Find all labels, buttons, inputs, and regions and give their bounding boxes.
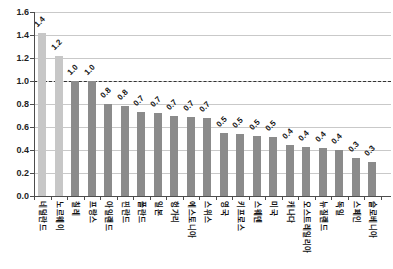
- y-axis-label: 0.6: [3, 123, 29, 132]
- bar-value-label: 0.7: [199, 100, 213, 114]
- bar-value-label: 1.4: [34, 15, 48, 29]
- bar-4: [88, 81, 96, 196]
- bar-value-label: 0.5: [265, 120, 279, 134]
- bar-value-label: 0.7: [166, 98, 180, 112]
- x-axis-tick: [150, 197, 151, 200]
- x-axis-label: 뉴질랜드: [319, 201, 327, 231]
- bar-7: [137, 112, 145, 196]
- bar-value-label: 0.7: [149, 96, 163, 110]
- bar-value-label: 0.4: [331, 132, 345, 146]
- x-axis-label: 폴란드: [137, 201, 145, 224]
- bar-19: [335, 150, 343, 196]
- x-axis-tick: [331, 197, 332, 200]
- bar-value-label: 0.4: [281, 128, 295, 142]
- x-axis-label: 영국: [220, 201, 228, 216]
- x-axis-tick: [84, 197, 85, 200]
- x-axis-label: 미국: [269, 201, 277, 216]
- y-axis-label: 0.4: [3, 146, 29, 155]
- bar-15: [269, 137, 277, 196]
- x-axis-label: 독일: [335, 201, 343, 216]
- bar-14: [253, 136, 261, 196]
- bar-value-label: 0.8: [116, 89, 130, 103]
- x-axis-label: 핀란드: [121, 201, 129, 224]
- y-axis-label: 1.4: [3, 31, 29, 40]
- y-axis-label: 0.2: [3, 169, 29, 178]
- x-axis-label: 노르웨이: [55, 201, 63, 231]
- x-axis-label: 스페인: [352, 201, 360, 224]
- x-axis-tick: [298, 197, 299, 200]
- bar-12: [220, 133, 228, 196]
- bar-chart: 0.00.20.40.60.81.01.21.41.61.4네덜란드1.2노르웨…: [0, 0, 393, 269]
- bar-13: [236, 134, 244, 196]
- bar-16: [286, 145, 294, 196]
- bar-value-label: 1.0: [67, 63, 81, 77]
- gridline: [34, 12, 391, 13]
- y-axis-label: 1.6: [3, 8, 29, 17]
- x-axis-label: 아일랜드: [104, 201, 112, 231]
- x-axis-line: [34, 196, 391, 197]
- x-axis-label: 일본: [154, 201, 162, 216]
- x-axis-tick: [364, 197, 365, 200]
- bar-value-label: 0.4: [298, 129, 312, 143]
- bar-9: [170, 116, 178, 197]
- bar-value-label: 0.7: [133, 95, 147, 109]
- x-axis-tick: [100, 197, 101, 200]
- bar-2: [55, 56, 63, 196]
- x-axis-tick: [282, 197, 283, 200]
- gridline: [34, 35, 391, 36]
- x-axis-label: 프랑스: [88, 201, 96, 224]
- bar-value-label: 0.3: [364, 144, 378, 158]
- x-axis-tick: [166, 197, 167, 200]
- bar-6: [121, 106, 129, 196]
- x-axis-tick: [315, 197, 316, 200]
- x-axis-tick: [381, 197, 382, 200]
- y-axis-label: 0.0: [3, 192, 29, 201]
- x-axis-tick: [216, 197, 217, 200]
- bar-value-label: 0.7: [182, 99, 196, 113]
- y-axis-label: 1.0: [3, 77, 29, 86]
- x-axis-label: 네덜란드: [38, 201, 46, 231]
- x-axis-label: 스위스: [203, 201, 211, 224]
- bar-21: [368, 162, 376, 197]
- bar-value-label: 0.5: [248, 119, 262, 133]
- x-axis-label: 캐나다: [286, 201, 294, 224]
- x-axis-tick: [34, 197, 35, 200]
- bar-10: [187, 117, 195, 196]
- bar-20: [352, 158, 360, 196]
- x-axis-label: 키프로스: [236, 201, 244, 231]
- x-axis-tick: [183, 197, 184, 200]
- x-axis-tick: [51, 197, 52, 200]
- bar-value-label: 0.8: [100, 86, 114, 100]
- bar-value-label: 0.3: [347, 141, 361, 155]
- x-axis-label: 오스트레일리아: [302, 201, 310, 254]
- bar-value-label: 1.2: [50, 38, 64, 52]
- x-axis-label: 에스토니아: [187, 201, 195, 239]
- y-axis-label: 0.8: [3, 100, 29, 109]
- bar-1: [38, 33, 46, 196]
- x-axis-tick: [117, 197, 118, 200]
- x-axis-tick: [265, 197, 266, 200]
- bar-value-label: 1.0: [83, 63, 97, 77]
- x-axis-label: 칠레: [71, 201, 79, 216]
- x-axis-label: 스웨덴: [253, 201, 261, 224]
- y-axis-line: [34, 12, 35, 196]
- bar-5: [104, 104, 112, 196]
- x-axis-tick: [133, 197, 134, 200]
- x-axis-tick: [348, 197, 349, 200]
- x-axis-tick: [249, 197, 250, 200]
- x-axis-label: 헝가리: [170, 201, 178, 224]
- bar-17: [302, 147, 310, 196]
- y-axis-label: 1.2: [3, 54, 29, 63]
- x-axis-tick: [199, 197, 200, 200]
- bar-11: [203, 118, 211, 196]
- bar-18: [319, 148, 327, 196]
- bar-8: [154, 113, 162, 196]
- bar-3: [71, 81, 79, 196]
- gridline: [34, 58, 391, 59]
- x-axis-label: 슬로베니아: [368, 201, 376, 239]
- bar-value-label: 0.4: [314, 130, 328, 144]
- x-axis-tick: [232, 197, 233, 200]
- x-axis-tick: [67, 197, 68, 200]
